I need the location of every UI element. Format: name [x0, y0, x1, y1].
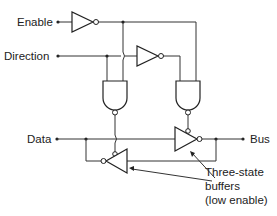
- enable-inverter: [72, 12, 99, 32]
- annotation-arrows: [129, 151, 215, 181]
- bus-transceiver-diagram: Enable Direction Data Bus: [0, 0, 277, 216]
- and-gate-right: [176, 81, 200, 115]
- direction-inverter: [137, 46, 164, 66]
- right-and-output-wire: [186, 115, 191, 133]
- direction-label: Direction: [4, 50, 49, 62]
- annotation-line-3: (low enable): [205, 194, 268, 206]
- data-label: Data: [27, 133, 52, 145]
- left-and-output-wire: [113, 115, 118, 156]
- annotation-line-1: Three-state: [205, 166, 264, 178]
- annotation-line-2: buffers: [205, 180, 240, 192]
- enable-wires: [58, 20, 196, 81]
- and-gate-left: [103, 81, 127, 115]
- enable-label: Enable: [17, 16, 53, 28]
- bus-label: Bus: [250, 133, 270, 145]
